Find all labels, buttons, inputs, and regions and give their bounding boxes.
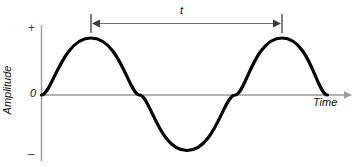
y-axis-zero-tick-label: 0 [30,88,36,99]
x-axis-title: Time [313,97,337,108]
sine-wave-figure: Amplitude Time 0 + – t [0,0,354,167]
sine-waveform-curve [42,38,328,151]
waveform-plot [0,0,354,167]
period-annotation-label: t [180,5,183,16]
y-axis-negative-tick-label: – [28,148,35,160]
x-axis-arrowhead-icon [344,91,352,99]
period-right-arrowhead-icon [273,20,281,28]
y-axis-positive-tick-label: + [28,22,35,34]
y-axis-title-text: Amplitude [2,66,13,115]
y-axis-title: Amplitude [0,62,14,118]
period-left-arrowhead-icon [92,20,100,28]
